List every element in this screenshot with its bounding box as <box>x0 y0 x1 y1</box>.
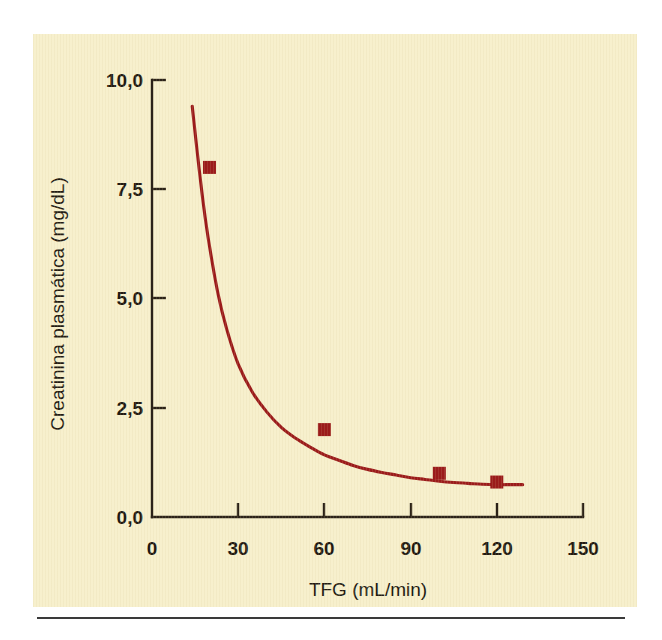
y-axis-title: Creatinina plasmática (mg/dL) <box>47 177 68 430</box>
x-tick-marks <box>238 503 583 517</box>
x-tick-label-90: 90 <box>400 538 421 559</box>
x-tick-label-150: 150 <box>567 538 599 559</box>
data-point-marker <box>490 476 503 489</box>
x-tick-label-30: 30 <box>227 538 248 559</box>
bottom-horizontal-rule <box>37 617 625 619</box>
data-point-marker <box>433 467 446 480</box>
y-tick-label-2_5: 2,5 <box>117 398 144 419</box>
x-tick-label-120: 120 <box>481 538 513 559</box>
data-point-marker <box>318 423 331 436</box>
page-canvas: 10,0 7,5 5,0 2,5 0,0 0 30 60 90 120 150 … <box>0 0 662 640</box>
x-tick-label-60: 60 <box>313 538 334 559</box>
chart-plot-area: 10,0 7,5 5,0 2,5 0,0 0 30 60 90 120 150 … <box>33 34 637 607</box>
y-tick-label-0_0: 0,0 <box>117 507 143 528</box>
y-tick-marks <box>152 80 166 408</box>
y-tick-label-7_5: 7,5 <box>117 179 144 200</box>
fitted-curve <box>192 106 522 484</box>
x-tick-label-0: 0 <box>147 538 158 559</box>
y-tick-label-10: 10,0 <box>106 70 143 91</box>
y-tick-label-5_0: 5,0 <box>117 288 143 309</box>
figure-panel: 10,0 7,5 5,0 2,5 0,0 0 30 60 90 120 150 … <box>33 34 637 607</box>
data-point-marker <box>203 161 216 174</box>
x-axis-title: TFG (mL/min) <box>309 579 427 600</box>
data-point-markers <box>203 161 503 489</box>
